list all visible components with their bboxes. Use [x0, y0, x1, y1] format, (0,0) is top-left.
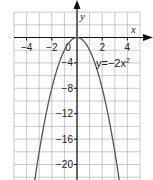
parabola-chart: −4−2024−4−8−12−16−20 x y y=−2x2 [0, 0, 153, 180]
equation-base: y=−2x [96, 57, 126, 69]
x-tick-label: 2 [99, 42, 105, 53]
y-tick-label: −4 [62, 57, 74, 68]
y-tick-label: −16 [56, 134, 73, 145]
y-axis-arrow-icon [74, 0, 81, 9]
y-tick-label: −20 [56, 159, 73, 170]
x-tick-label: −4 [21, 42, 33, 53]
y-axis-label: y [79, 10, 85, 22]
curve-equation-label: y=−2x2 [96, 57, 130, 69]
x-axis-arrow-icon [143, 34, 153, 41]
y-tick-label: −8 [62, 83, 74, 94]
x-tick-label: 4 [125, 42, 131, 53]
x-axis-label: x [130, 23, 136, 35]
y-tick-label: −12 [56, 108, 73, 119]
x-tick-label: −2 [46, 42, 58, 53]
equation-exponent: 2 [126, 57, 130, 64]
